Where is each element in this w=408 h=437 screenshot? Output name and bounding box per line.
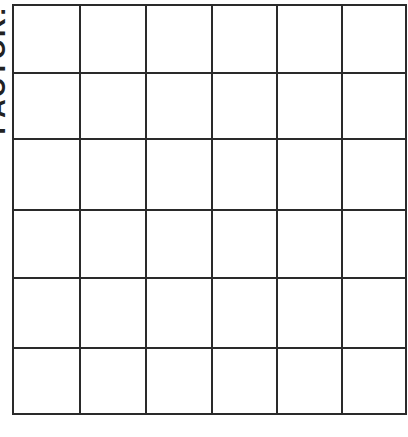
side-label-container: FACTOR: (0, 0, 10, 437)
grid-line-horizontal (12, 209, 407, 211)
grid-line-horizontal (12, 277, 407, 279)
grid-cell[interactable] (81, 140, 145, 209)
grid-line-horizontal (12, 413, 407, 415)
grid-line-vertical (145, 4, 147, 415)
grid-cell[interactable] (278, 6, 341, 72)
grid-line-horizontal (12, 347, 407, 349)
grid-cell[interactable] (81, 279, 145, 347)
grid-cell[interactable] (147, 6, 211, 72)
grid-cell[interactable] (213, 74, 276, 138)
grid-line-vertical (341, 4, 343, 415)
grid-cell[interactable] (147, 211, 211, 277)
side-label: FACTOR: (0, 5, 10, 134)
grid-cell[interactable] (213, 279, 276, 347)
grid-cell[interactable] (14, 349, 79, 413)
grid-cell[interactable] (14, 211, 79, 277)
grid-line-vertical (12, 4, 14, 415)
grid-cell[interactable] (14, 74, 79, 138)
grid-line-horizontal (12, 4, 407, 6)
grid-cell[interactable] (343, 140, 405, 209)
grid-line-horizontal (12, 138, 407, 140)
grid-line-vertical (79, 4, 81, 415)
grid-cell[interactable] (278, 140, 341, 209)
grid-cell[interactable] (147, 74, 211, 138)
grid-line-horizontal (12, 72, 407, 74)
grid-cell[interactable] (14, 6, 79, 72)
grid (12, 4, 407, 415)
grid-cell[interactable] (81, 6, 145, 72)
grid-cell[interactable] (14, 140, 79, 209)
grid-cell[interactable] (81, 211, 145, 277)
grid-cell[interactable] (81, 349, 145, 413)
grid-cell[interactable] (343, 349, 405, 413)
grid-cell[interactable] (278, 349, 341, 413)
grid-cell[interactable] (81, 74, 145, 138)
grid-cell[interactable] (14, 279, 79, 347)
grid-cell[interactable] (343, 6, 405, 72)
grid-cell[interactable] (213, 349, 276, 413)
grid-cell[interactable] (147, 279, 211, 347)
grid-cell[interactable] (213, 6, 276, 72)
grid-cell[interactable] (343, 74, 405, 138)
grid-cell[interactable] (278, 279, 341, 347)
grid-line-vertical (276, 4, 278, 415)
grid-cell[interactable] (147, 349, 211, 413)
grid-cell[interactable] (213, 211, 276, 277)
grid-line-vertical (405, 4, 407, 415)
grid-cell[interactable] (278, 74, 341, 138)
grid-line-vertical (211, 4, 213, 415)
grid-cell[interactable] (147, 140, 211, 209)
grid-cell[interactable] (278, 211, 341, 277)
grid-cell[interactable] (343, 211, 405, 277)
grid-cell[interactable] (213, 140, 276, 209)
grid-cell[interactable] (343, 279, 405, 347)
